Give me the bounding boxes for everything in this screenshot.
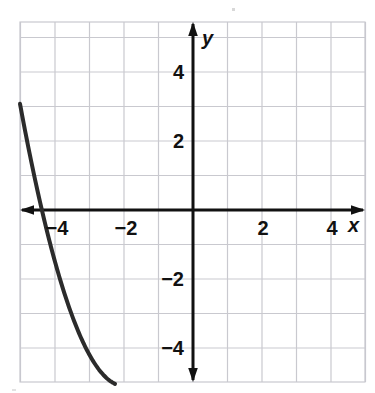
- x-tick-label: −4: [46, 217, 70, 239]
- coordinate-plane: −4−224 42−2−4 y x: [0, 0, 375, 393]
- y-axis-arrow-down: [188, 368, 198, 382]
- y-axis-arrow-up: [188, 22, 198, 36]
- x-tick-label: −2: [115, 217, 138, 239]
- x-axis-arrow-left: [20, 205, 34, 215]
- scan-artifact-speck: [232, 8, 235, 11]
- graph-figure: −4−224 42−2−4 y x: [0, 0, 375, 393]
- y-tick-label: 4: [173, 61, 185, 83]
- parabola-curve: [20, 104, 115, 384]
- x-tick-label: 4: [326, 217, 338, 239]
- x-axis-label: x: [347, 214, 360, 236]
- x-tick-label: 2: [257, 217, 268, 239]
- y-tick-label: 2: [173, 130, 184, 152]
- y-axis: [188, 22, 198, 382]
- y-axis-label: y: [201, 27, 214, 49]
- y-tick-label: −4: [161, 337, 185, 359]
- y-tick-label: −2: [161, 268, 184, 290]
- scan-artifact-speck-2: [12, 389, 16, 391]
